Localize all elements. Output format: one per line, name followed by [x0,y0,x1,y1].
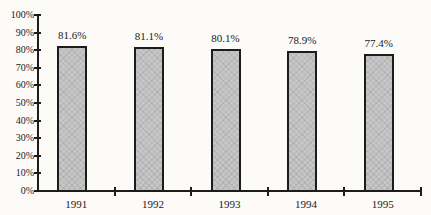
bar-1995 [364,54,394,192]
y-axis-tick-label: 50% [0,98,34,108]
y-axis-tick [34,120,41,122]
bar-chart: 0%10%20%30%40%50%60%70%80%90%100%81.6%19… [0,0,431,215]
y-axis-tick [34,155,41,157]
y-axis-tick-label: 0% [0,186,34,196]
x-axis-tick [267,187,269,196]
y-axis-tick-label: 80% [0,45,34,55]
x-axis-tick [343,187,345,196]
bar-1993 [211,49,241,192]
bar-1994 [287,51,317,192]
x-axis-tick [114,187,116,196]
x-axis-tick [420,187,422,196]
x-axis-category-label: 1993 [200,198,260,210]
x-axis-tick [190,187,192,196]
bar-1992 [134,47,164,192]
y-axis-tick [34,172,41,174]
x-axis-category-label: 1994 [276,198,336,210]
bar-value-label: 77.4% [349,37,409,49]
y-axis-tick-label: 90% [0,28,34,38]
y-axis-tick [34,32,41,34]
y-axis-tick-label: 10% [0,168,34,178]
bar-value-label: 81.1% [119,30,179,42]
y-axis-tick-label: 20% [0,151,34,161]
x-axis-category-label: 1991 [46,198,106,210]
y-axis-tick [34,49,41,51]
y-axis-tick [34,102,41,104]
bar-1991 [57,46,87,192]
y-axis-tick-label: 60% [0,80,34,90]
y-axis-tick [34,190,41,192]
x-axis-category-label: 1995 [353,198,413,210]
x-axis-category-label: 1992 [123,198,183,210]
bar-value-label: 80.1% [196,32,256,44]
y-axis-tick-label: 30% [0,133,34,143]
y-axis-tick [34,84,41,86]
y-axis-tick-label: 40% [0,116,34,126]
y-axis-tick-label: 70% [0,63,34,73]
y-axis-tick [34,14,41,16]
bar-value-label: 81.6% [42,29,102,41]
y-axis-tick [34,67,41,69]
y-axis-tick [34,137,41,139]
y-axis-tick-label: 100% [0,10,34,20]
bar-value-label: 78.9% [272,34,332,46]
